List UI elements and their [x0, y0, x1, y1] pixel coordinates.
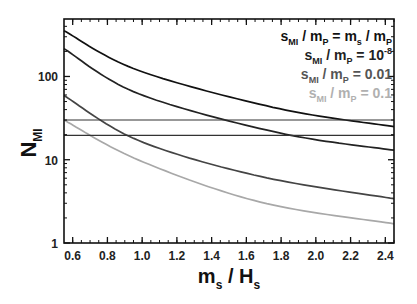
x-tick-label: 1.0	[134, 249, 151, 263]
x-tick-label: 1.2	[169, 249, 186, 263]
svg-text:NMI: NMI	[16, 128, 45, 157]
y-tick-label: 100	[38, 70, 58, 84]
x-tick-label: 1.6	[238, 249, 255, 263]
x-tick-label: 1.4	[203, 249, 220, 263]
legend-entry: sMI / mP = 10-8	[305, 46, 392, 66]
y-tick-label: 10	[45, 154, 59, 168]
x-tick-label: 0.6	[64, 249, 81, 263]
series-line	[64, 96, 394, 199]
y-axis-title: NMI	[16, 128, 45, 157]
x-tick-label: 2.4	[377, 249, 394, 263]
x-tick-label: 0.8	[99, 249, 116, 263]
y-tick-label: 1	[51, 237, 58, 251]
legend-entry: sMI / mP = ms / mP	[281, 28, 393, 47]
x-tick-label: 2.2	[342, 249, 359, 263]
x-tick-label: 2.0	[307, 249, 324, 263]
legend: sMI / mP = ms / mPsMI / mP = 10-8sMI / m…	[281, 28, 393, 104]
chart: 0.60.81.01.21.41.61.82.02.22.4110100 sMI…	[0, 0, 417, 304]
legend-entry: sMI / mP = 0.01	[301, 66, 392, 85]
legend-entry: sMI / mP = 0.1	[309, 85, 393, 104]
x-axis-title: ms / Hs	[198, 265, 261, 292]
x-tick-label: 1.8	[273, 249, 290, 263]
